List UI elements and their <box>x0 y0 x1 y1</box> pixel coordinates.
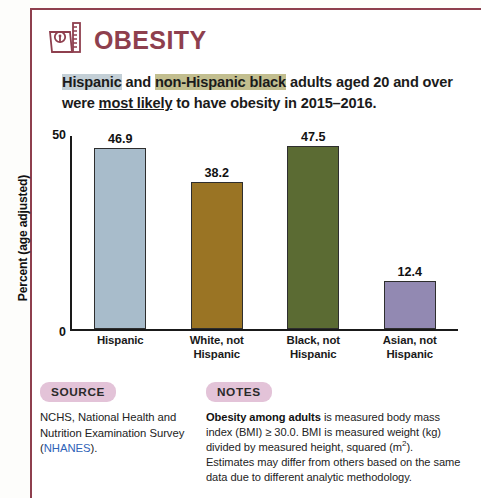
notes-badge: NOTES <box>206 382 272 402</box>
source-text-after: ). <box>91 442 98 454</box>
bar-value-label: 38.2 <box>191 166 243 180</box>
bar-slot: 38.2 <box>191 136 243 329</box>
notes-section: NOTES Obesity among adults is measured b… <box>206 382 464 485</box>
x-axis-label-line: Asian, not <box>362 334 459 348</box>
bar-slot: 12.4 <box>384 136 436 329</box>
source-badge: SOURCE <box>40 382 116 402</box>
plot-area: 50 0 46.938.247.512.4 <box>70 136 458 331</box>
x-axis-label: White, notHispanic <box>169 334 266 362</box>
bar-chart: Percent (age adjusted) 50 0 46.938.247.5… <box>34 126 458 344</box>
x-axis-label-line: Hispanic <box>169 348 266 362</box>
bar-group: 46.938.247.512.4 <box>72 136 458 329</box>
bar-value-label: 12.4 <box>384 265 436 279</box>
bar <box>94 148 146 329</box>
x-axis-label-line: Hispanic <box>362 348 459 362</box>
header: OBESITY <box>44 14 464 66</box>
x-axis-label-line: Hispanic <box>265 348 362 362</box>
bar <box>384 281 436 329</box>
bar-value-label: 46.9 <box>94 132 146 146</box>
footer: SOURCE NCHS, National Health and Nutriti… <box>40 382 464 485</box>
subtitle-segment-5: to have obesity in 2015–2016. <box>172 95 376 111</box>
source-section: SOURCE NCHS, National Health and Nutriti… <box>40 382 190 485</box>
subtitle-segment-1: and <box>122 74 155 90</box>
x-axis-label-line: Hispanic <box>72 334 169 348</box>
x-axis-label: Asian, notHispanic <box>362 334 459 362</box>
infographic-page: OBESITY Hispanic and non-Hispanic black … <box>0 0 481 498</box>
subtitle-segment-4: most likely <box>99 95 173 111</box>
bar-slot: 46.9 <box>94 136 146 329</box>
y-tick-label-50: 50 <box>52 128 66 142</box>
weight-scale-and-ruler-icon <box>44 18 84 62</box>
x-axis-label: Hispanic <box>72 334 169 348</box>
y-tick-label-0: 0 <box>59 325 66 339</box>
bar <box>287 146 339 329</box>
x-axis-line <box>70 329 458 331</box>
subtitle: Hispanic and non-Hispanic black adults a… <box>62 72 462 115</box>
bar-slot: 47.5 <box>287 136 339 329</box>
y-axis-label: Percent (age adjusted) <box>16 168 30 308</box>
card-frame-top-rule <box>30 8 481 10</box>
x-axis-label: Black, notHispanic <box>265 334 362 362</box>
subtitle-segment-2: non-Hispanic black <box>155 74 286 90</box>
x-axis-label-line: Black, not <box>265 334 362 348</box>
notes-text: Obesity among adults is measured body ma… <box>206 410 464 485</box>
nhanes-link[interactable]: NHANES <box>44 442 91 454</box>
bar <box>191 182 243 329</box>
source-text: NCHS, National Health and Nutrition Exam… <box>40 410 190 457</box>
bar-value-label: 47.5 <box>287 130 339 144</box>
page-title: OBESITY <box>94 28 207 53</box>
subtitle-segment-0: Hispanic <box>62 74 122 90</box>
x-axis-labels: HispanicWhite, notHispanicBlack, notHisp… <box>72 334 458 368</box>
x-axis-label-line: White, not <box>169 334 266 348</box>
notes-lead: Obesity among adults <box>206 411 321 423</box>
